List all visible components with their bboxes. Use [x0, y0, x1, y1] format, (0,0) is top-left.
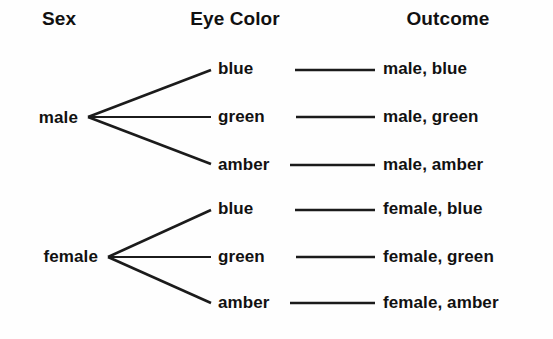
outcome-female-green: female, green: [383, 247, 494, 267]
header-eye-color: Eye Color: [190, 8, 280, 30]
node-female-green: green: [218, 247, 265, 267]
node-female-amber: amber: [218, 293, 270, 313]
outcome-male-blue: male, blue: [383, 59, 467, 79]
outcome-male-green: male, green: [383, 107, 479, 127]
outcome-male-amber: male, amber: [383, 155, 483, 175]
node-male-green: green: [218, 107, 265, 127]
edge-male-blue: [88, 70, 211, 117]
node-male: male: [39, 108, 78, 128]
outcome-female-blue: female, blue: [383, 199, 482, 219]
edge-female-amber: [108, 257, 211, 303]
header-outcome: Outcome: [406, 8, 489, 30]
node-male-blue: blue: [218, 59, 253, 79]
outcome-female-amber: female, amber: [383, 293, 499, 313]
edge-female-blue: [108, 210, 211, 257]
tree-diagram: Sex Eye Color Outcome male female blue g…: [0, 0, 553, 339]
node-female-blue: blue: [218, 199, 253, 219]
node-male-amber: amber: [218, 155, 270, 175]
edge-male-amber: [88, 117, 211, 164]
header-sex: Sex: [42, 8, 76, 30]
node-female: female: [44, 247, 98, 267]
